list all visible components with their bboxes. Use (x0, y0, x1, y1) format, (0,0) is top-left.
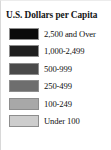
legend-swatch-2500-and-over (9, 28, 39, 40)
legend-label-500-999: 500-999 (44, 63, 72, 75)
legend-entry: 250-499 (1, 79, 111, 96)
map-legend: U.S. Dollars per Capita 2,500 and Over 1… (0, 0, 111, 150)
legend-label-100-249: 100-249 (44, 98, 72, 110)
legend-swatch-1000-2499 (9, 45, 39, 57)
legend-entry: Under 100 (1, 114, 111, 131)
legend-label-250-499: 250-499 (44, 80, 72, 92)
legend-label-1000-2499: 1,000-2,499 (44, 45, 84, 57)
legend-swatch-under-100 (9, 115, 39, 127)
legend-label-2500-and-over: 2,500 and Over (44, 28, 96, 40)
legend-swatch-100-249 (9, 98, 39, 110)
legend-entry: 1,000-2,499 (1, 44, 111, 61)
legend-entry: 100-249 (1, 97, 111, 114)
legend-label-under-100: Under 100 (44, 115, 80, 127)
legend-entry: 2,500 and Over (1, 27, 111, 44)
legend-entry-list: 2,500 and Over 1,000-2,499 500-999 250-4… (1, 27, 111, 131)
legend-entry: 500-999 (1, 62, 111, 79)
legend-title: U.S. Dollars per Capita (6, 10, 110, 20)
legend-swatch-500-999 (9, 63, 39, 75)
legend-swatch-250-499 (9, 80, 39, 92)
